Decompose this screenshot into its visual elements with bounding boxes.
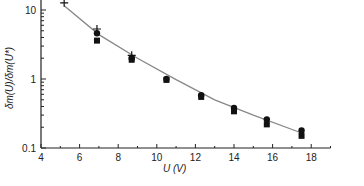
square-marker xyxy=(129,57,135,63)
square-marker xyxy=(94,38,100,44)
circle-marker xyxy=(94,30,100,36)
square-marker xyxy=(163,77,169,83)
square-marker xyxy=(264,121,270,127)
fit-curve xyxy=(64,6,301,133)
y-tick-label: 1 xyxy=(30,74,36,85)
chart: 46810121416180.1110δm(U)/δm(U*) xyxy=(0,0,364,186)
x-tick-label: 16 xyxy=(267,152,279,163)
circle-marker xyxy=(298,127,304,133)
cross-marker xyxy=(60,0,68,7)
x-tick-label: 10 xyxy=(151,152,163,163)
x-axis-label: U (V) xyxy=(163,163,186,174)
x-tick-label: 8 xyxy=(115,152,121,163)
square-marker xyxy=(198,94,204,100)
y-tick-label: 10 xyxy=(25,5,37,16)
y-tick-label: 0.1 xyxy=(22,143,36,154)
x-tick-label: 14 xyxy=(228,152,240,163)
x-tick-label: 18 xyxy=(306,152,318,163)
square-marker xyxy=(299,133,305,139)
x-tick-label: 6 xyxy=(77,152,83,163)
square-marker xyxy=(231,108,237,114)
x-tick-label: 12 xyxy=(190,152,202,163)
y-axis-label: δm(U)/δm(U*) xyxy=(4,47,15,109)
x-tick-label: 4 xyxy=(38,152,44,163)
